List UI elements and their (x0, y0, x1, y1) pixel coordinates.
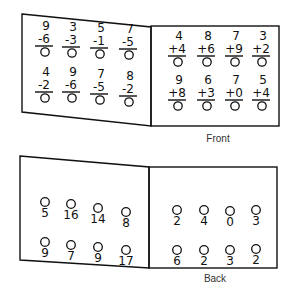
problem: 8+6 (197, 29, 215, 66)
front-caption: Front (206, 133, 230, 144)
answer-circle (41, 94, 49, 102)
problem-bottom-number: -6 (38, 32, 50, 46)
answer-item: 17 (118, 246, 133, 268)
problem-bottom-number: -3 (65, 33, 77, 47)
problem-top-number: 5 (97, 21, 105, 35)
answer-item: 4 (200, 206, 209, 228)
back-card: 51614897917 24036232 Back (20, 156, 277, 284)
answer-circle (68, 94, 76, 102)
answer-item: 16 (63, 200, 78, 222)
problem-bottom-number: +2 (252, 42, 270, 56)
problem: 4-2 (35, 65, 53, 102)
back-left-answers: 51614897917 (41, 198, 134, 268)
problem: 7+9 (225, 29, 243, 66)
front-card: 9-63-35-17-54-29-67-58-2 4+48+67+93+29+8… (22, 14, 279, 144)
answer-number: 8 (122, 216, 130, 230)
answer-number: 2 (173, 214, 181, 228)
answer-number: 9 (94, 251, 102, 265)
answer-circle (94, 204, 103, 213)
problem: 4+4 (168, 29, 186, 66)
answer-circle (258, 58, 266, 66)
problem-bottom-number: -2 (122, 82, 134, 96)
problem: 9+8 (168, 73, 186, 110)
answer-circle (203, 102, 211, 110)
answer-circle (226, 246, 235, 255)
problem-bottom-number: +9 (225, 42, 243, 56)
answer-circle (67, 241, 76, 250)
problem-top-number: 7 (126, 22, 134, 36)
answer-number: 5 (41, 206, 49, 220)
answer-circle (258, 102, 266, 110)
answer-circle (203, 58, 211, 66)
problem: 9-6 (35, 19, 53, 56)
problem-top-number: 8 (204, 29, 212, 43)
problem: 3-3 (62, 20, 80, 57)
answer-item: 8 (122, 208, 131, 230)
answer-item: 7 (67, 241, 76, 263)
answer-circle (122, 246, 131, 255)
back-caption: Back (204, 273, 227, 284)
problem-bottom-number: -5 (122, 35, 134, 49)
problem-top-number: 4 (175, 29, 183, 43)
problem: 9-6 (62, 65, 80, 102)
problem-bottom-number: -5 (93, 80, 105, 94)
problem-bottom-number: +3 (197, 86, 215, 100)
problem-top-number: 3 (259, 29, 267, 43)
answer-number: 2 (252, 253, 260, 267)
flashcard-diagram: 9-63-35-17-54-29-67-58-2 4+48+67+93+29+8… (0, 0, 294, 291)
answer-circle (252, 206, 261, 215)
back-right-answers: 24036232 (173, 206, 261, 268)
answer-number: 6 (173, 254, 181, 268)
problem-bottom-number: +0 (225, 86, 243, 100)
problem-top-number: 5 (259, 73, 267, 87)
problem-bottom-number: +4 (252, 86, 270, 100)
answer-item: 3 (252, 206, 261, 228)
problem-bottom-number: -2 (38, 78, 50, 92)
answer-circle (252, 245, 261, 254)
problem: 7+0 (225, 73, 243, 110)
answer-circle (41, 198, 50, 207)
answer-number: 17 (118, 254, 133, 268)
answer-circle (174, 58, 182, 66)
answer-circle (96, 50, 104, 58)
answer-circle (173, 246, 182, 255)
answer-circle (68, 49, 76, 57)
problem-bottom-number: +4 (168, 42, 186, 56)
problem-bottom-number: +6 (197, 42, 215, 56)
answer-item: 5 (41, 198, 50, 220)
answer-item: 3 (226, 246, 235, 268)
answer-item: 9 (41, 238, 50, 260)
problem: 5-1 (90, 21, 108, 58)
problem: 7-5 (90, 67, 108, 104)
answer-circle (67, 200, 76, 209)
answer-circle (96, 96, 104, 104)
problem-top-number: 7 (232, 73, 240, 87)
answer-circle (200, 206, 209, 215)
answer-number: 3 (226, 254, 234, 268)
answer-item: 6 (173, 246, 182, 268)
answer-number: 2 (200, 254, 208, 268)
answer-circle (94, 243, 103, 252)
answer-number: 14 (90, 212, 105, 226)
answer-circle (200, 246, 209, 255)
answer-circle (41, 48, 49, 56)
answer-circle (122, 208, 131, 217)
problem: 6+3 (197, 73, 215, 110)
answer-number: 16 (63, 208, 78, 222)
answer-number: 0 (226, 215, 234, 229)
problem: 7-5 (119, 22, 137, 59)
problem: 3+2 (252, 29, 270, 66)
answer-circle (41, 238, 50, 247)
answer-circle (226, 207, 235, 216)
answer-item: 2 (173, 206, 182, 228)
answer-circle (125, 98, 133, 106)
answer-circle (174, 102, 182, 110)
answer-number: 7 (67, 249, 75, 263)
answer-item: 0 (226, 207, 235, 229)
answer-circle (173, 206, 182, 215)
problem-top-number: 9 (69, 65, 77, 79)
problem-top-number: 3 (69, 20, 77, 34)
problem: 5+4 (252, 73, 270, 110)
problem-top-number: 9 (175, 73, 183, 87)
answer-item: 14 (90, 204, 105, 226)
